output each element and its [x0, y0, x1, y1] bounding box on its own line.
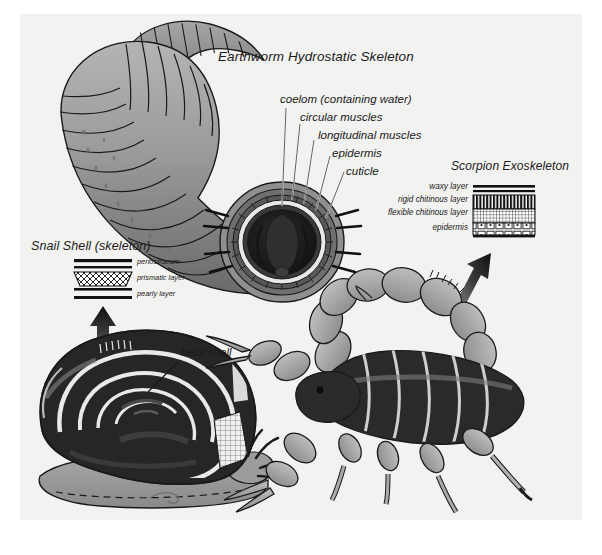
scorpion-layer-flexible-chitinous: flexible chitinous layer	[385, 209, 468, 217]
snail-title: Snail Shell (skeleton)	[31, 240, 151, 253]
scorpion-title: Scorpion Exoskeleton	[451, 160, 569, 172]
scorpion-layer-rigid-chitinous: rigid chitinous layer	[389, 196, 468, 204]
earthworm-title: Earthworm Hydrostatic Skeleton	[218, 50, 414, 64]
snail-layer-periostracum: periostracum	[137, 258, 180, 265]
scorpion-layer-epidermis: epidermis	[389, 224, 468, 232]
earthworm-label-circular-muscles: circular muscles	[300, 112, 382, 124]
figure-canvas	[20, 14, 582, 520]
figure-page: Earthworm Hydrostatic Skeleton coelom (c…	[0, 0, 602, 555]
snail-layer-pearly: pearly layer	[137, 290, 175, 297]
earthworm-label-longitudinal-muscles: longitudinal muscles	[318, 130, 422, 142]
earthworm-label-epidermis: epidermis	[332, 148, 382, 160]
helix-shell-label: helix shell	[181, 347, 232, 359]
earthworm-label-coelom: coelom (containing water)	[280, 94, 412, 106]
earthworm-label-cuticle: cuticle	[346, 166, 379, 178]
snail-layer-prismatic: prismatic layer	[137, 274, 185, 281]
scorpion-layer-waxy: waxy layer	[389, 183, 468, 191]
